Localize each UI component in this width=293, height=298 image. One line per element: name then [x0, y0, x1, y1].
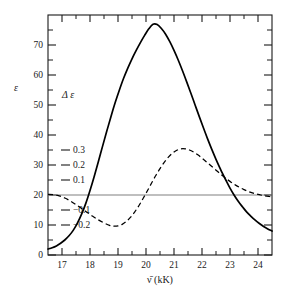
x-tick-label: 21 [169, 260, 179, 270]
x-tick-label: 23 [225, 260, 235, 270]
x-tick-label: 22 [197, 260, 207, 270]
y-tick-label: 10 [34, 220, 44, 230]
y-axis-title: ε [14, 82, 18, 93]
delta-tick-label: 0.2 [73, 160, 85, 170]
delta-axis-title: Δ ε [61, 89, 74, 100]
delta-tick-label: 0.3 [73, 145, 85, 155]
y-tick-label: 70 [34, 40, 44, 50]
chart-figure: 1718192021222324 010203040506070 0.30.20… [0, 0, 293, 298]
x-axis-title: ν̄ (kK) [147, 274, 173, 286]
y-tick-label: 0 [38, 250, 43, 260]
delta-tick-label: 0.1 [73, 175, 85, 185]
y-tick-label: 20 [34, 190, 44, 200]
spectrum-chart: 1718192021222324 010203040506070 0.30.20… [0, 0, 293, 298]
y-tick-label: 50 [34, 100, 44, 110]
y-tick-label: 30 [34, 160, 44, 170]
y-tick-label: 60 [34, 70, 44, 80]
x-tick-label: 19 [113, 260, 123, 270]
x-tick-label: 24 [253, 260, 263, 270]
y-tick-label: 40 [34, 130, 44, 140]
x-tick-label: 17 [57, 260, 67, 270]
x-tick-label: 20 [141, 260, 151, 270]
x-tick-label: 18 [85, 260, 95, 270]
